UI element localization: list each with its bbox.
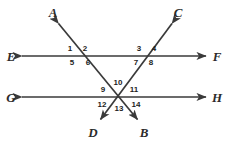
angle-label-7: 7	[134, 59, 138, 67]
point-label-b: B	[140, 126, 149, 139]
angle-label-14: 14	[132, 101, 141, 109]
point-label-a: A	[49, 6, 58, 19]
angle-label-11: 11	[130, 86, 138, 94]
diagram-canvas	[0, 0, 228, 145]
angle-label-12: 12	[98, 101, 107, 109]
angle-label-6: 6	[86, 59, 90, 67]
angle-label-8: 8	[149, 59, 153, 67]
geometry-diagram: A C E F G H D B 1 2 3 4 5 6 7 8 9 10 11 …	[0, 0, 228, 145]
angle-label-5: 5	[70, 59, 74, 67]
point-label-c: C	[174, 6, 183, 19]
angle-label-1: 1	[68, 45, 72, 53]
angle-label-4: 4	[152, 45, 156, 53]
angle-label-2: 2	[83, 45, 87, 53]
angle-label-9: 9	[101, 86, 105, 94]
point-label-g: G	[6, 91, 15, 104]
point-label-d: D	[88, 126, 97, 139]
point-label-f: F	[213, 50, 222, 63]
angle-label-13: 13	[115, 105, 124, 113]
angle-label-10: 10	[114, 79, 123, 87]
point-label-h: H	[212, 91, 222, 104]
angle-label-3: 3	[137, 45, 141, 53]
point-label-e: E	[7, 50, 16, 63]
